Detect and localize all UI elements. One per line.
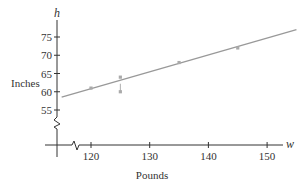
y-tick-label: 70: [41, 49, 53, 61]
x-axis-label: Pounds: [136, 169, 168, 181]
x-tick-label: 130: [141, 150, 158, 162]
data-point: [119, 76, 122, 79]
y-axis-break: [54, 117, 60, 129]
y-axis-variable: h: [54, 6, 60, 20]
scatter-chart: 5560657075120130140150 h w Inches Pounds: [0, 0, 299, 189]
data-point: [236, 46, 239, 49]
axes: [45, 20, 283, 157]
y-tick-label: 60: [41, 86, 53, 98]
x-tick-label: 150: [259, 150, 276, 162]
data-points: [89, 46, 239, 93]
x-tick-label: 120: [83, 150, 100, 162]
x-axis-variable: w: [286, 137, 294, 151]
x-axis-break: [72, 141, 79, 150]
y-tick-label: 75: [41, 31, 53, 43]
ticks: 5560657075120130140150: [41, 31, 276, 162]
x-tick-label: 140: [200, 150, 217, 162]
data-point: [89, 87, 92, 90]
data-point: [177, 61, 180, 64]
y-tick-label: 55: [41, 104, 53, 116]
y-tick-label: 65: [41, 68, 53, 80]
y-axis-label: Inches: [11, 77, 40, 89]
data-point: [119, 90, 122, 93]
